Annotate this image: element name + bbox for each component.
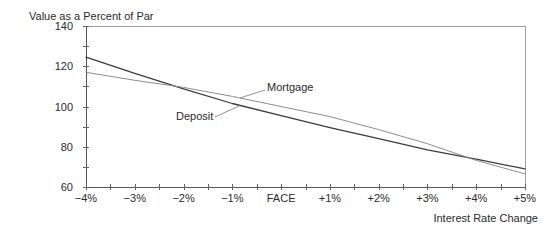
x-tick-label: +1% xyxy=(319,192,342,204)
mortgage-leader-line xyxy=(240,90,265,98)
y-tick-label: 140 xyxy=(55,20,73,32)
series-lines xyxy=(86,57,525,174)
x-tick-label: +4% xyxy=(465,192,488,204)
deposit-leader-line xyxy=(215,106,239,117)
x-tick-label: FACE xyxy=(267,192,296,204)
x-tick-label: −3% xyxy=(124,192,147,204)
line-chart: Value as a Percent of Par Interest Rate … xyxy=(0,0,545,233)
x-axis-title: Interest Rate Change xyxy=(433,212,538,224)
x-tick-label: +2% xyxy=(368,192,391,204)
y-tick-label: 100 xyxy=(55,101,73,113)
y-axis-title: Value as a Percent of Par xyxy=(29,10,154,22)
x-tick-label: +5% xyxy=(514,192,537,204)
y-tick-label: 60 xyxy=(61,181,73,193)
mortgage-series-label: Mortgage xyxy=(267,81,313,93)
deposit-series-label: Deposit xyxy=(176,110,213,122)
y-axis-ticks: 6080100120140 xyxy=(55,20,89,193)
x-tick-label: +3% xyxy=(416,192,439,204)
y-tick-label: 80 xyxy=(61,141,73,153)
x-tick-label: −1% xyxy=(221,192,244,204)
y-tick-label: 120 xyxy=(55,60,73,72)
deposit-line xyxy=(86,57,525,169)
x-tick-label: −4% xyxy=(75,192,98,204)
x-tick-label: −2% xyxy=(172,192,195,204)
